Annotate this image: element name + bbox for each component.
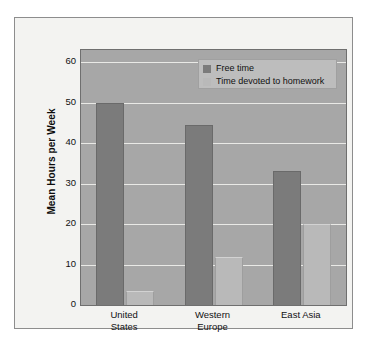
legend-label-homework: Time devoted to homework	[216, 76, 324, 87]
legend-item-homework: Time devoted to homework	[203, 75, 332, 88]
x-axis-tick-label-line: East Asia	[257, 309, 345, 321]
legend-swatch-free-time	[203, 65, 211, 73]
x-axis-tick-label-line: States	[80, 321, 168, 333]
x-axis-tick-label: UnitedStates	[80, 309, 168, 333]
x-axis-tick-label-line: Western	[168, 309, 256, 321]
y-axis-tick-label: 50	[54, 97, 76, 107]
bar	[185, 125, 213, 305]
legend-swatch-homework	[203, 78, 211, 86]
y-axis-tick-label: 60	[54, 56, 76, 66]
x-axis-tick-label-line: Europe	[168, 321, 256, 333]
chart-figure: Mean Hours per Week 0102030405060 United…	[0, 0, 367, 354]
x-axis-tick-label-line: United	[80, 309, 168, 321]
bar	[215, 257, 243, 305]
y-axis-tick-label: 0	[54, 299, 76, 309]
x-axis-tick-labels: UnitedStatesWesternEuropeEast Asia	[80, 309, 347, 349]
y-axis-tick-label: 20	[54, 218, 76, 228]
bar	[303, 224, 331, 305]
y-axis-tick-labels: 0102030405060	[51, 49, 76, 306]
bar	[96, 103, 124, 305]
y-axis-tick-label: 10	[54, 259, 76, 269]
legend-item-free-time: Free time	[203, 62, 332, 75]
y-axis-tick-label: 40	[54, 137, 76, 147]
legend-label-free-time: Free time	[216, 63, 254, 74]
chart-card: Mean Hours per Week 0102030405060 United…	[14, 17, 353, 329]
x-axis-tick-label: WesternEurope	[168, 309, 256, 333]
x-axis-tick-label: East Asia	[257, 309, 345, 321]
bar	[273, 171, 301, 305]
legend: Free time Time devoted to homework	[198, 59, 337, 89]
y-axis-tick-label: 30	[54, 178, 76, 188]
bar	[126, 291, 154, 305]
